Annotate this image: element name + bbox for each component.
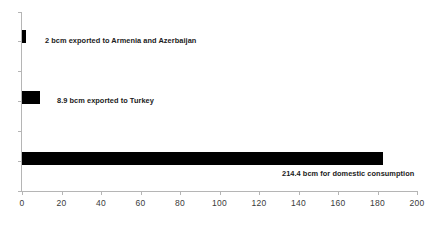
bar-label-turkey: 8.9 bcm exported to Turkey xyxy=(57,96,154,105)
x-axis-tick xyxy=(220,191,221,195)
x-axis-tick xyxy=(417,191,418,195)
x-axis-tick-label: 160 xyxy=(318,198,358,208)
x-axis-tick xyxy=(101,191,102,195)
bar-domestic-consumption xyxy=(22,152,383,165)
x-axis-tick-label: 40 xyxy=(81,198,121,208)
x-axis-tick xyxy=(141,191,142,195)
x-axis-tick-label: 100 xyxy=(200,198,240,208)
x-axis-tick xyxy=(22,191,23,195)
bar-chart: 0 20 40 60 80 100 120 140 160 180 200 2 … xyxy=(0,0,447,225)
x-axis-tick-label: 140 xyxy=(279,198,319,208)
x-axis-tick xyxy=(299,191,300,195)
x-axis-tick-label: 20 xyxy=(42,198,82,208)
bar-armenia-azerbaijan xyxy=(22,30,26,43)
y-axis-tick xyxy=(18,71,22,72)
y-axis-tick xyxy=(18,12,22,13)
x-axis-tick xyxy=(62,191,63,195)
x-axis-tick-label: 60 xyxy=(121,198,161,208)
bar-label-armenia-azerbaijan: 2 bcm exported to Armenia and Azerbaijan xyxy=(45,36,196,45)
x-axis-tick-label: 0 xyxy=(2,198,42,208)
y-axis-tick xyxy=(18,131,22,132)
x-axis-tick-label: 180 xyxy=(358,198,398,208)
x-axis-tick-label: 200 xyxy=(397,198,437,208)
x-axis-tick xyxy=(378,191,379,195)
x-axis-tick xyxy=(259,191,260,195)
x-axis-tick-label: 80 xyxy=(160,198,200,208)
x-axis-tick-label: 120 xyxy=(239,198,279,208)
bar-label-domestic-consumption: 214.4 bcm for domestic consumption xyxy=(282,169,414,178)
bar-turkey xyxy=(22,91,40,104)
x-axis-tick xyxy=(338,191,339,195)
x-axis-tick xyxy=(180,191,181,195)
